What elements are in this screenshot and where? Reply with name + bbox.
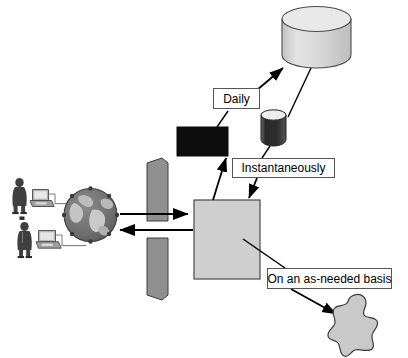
black-rectangle-node	[177, 127, 228, 156]
arrow-server-to-blackbox	[213, 158, 226, 200]
amoeba-blob-node	[328, 294, 378, 356]
line-blackbox-to-daily	[217, 111, 228, 127]
firewall-barrier-bottom	[147, 238, 168, 300]
globe-internet	[62, 186, 119, 243]
user-person-top	[12, 178, 27, 214]
line-warehouse-to-smalldb	[288, 68, 311, 117]
label-daily: Daily	[213, 88, 260, 109]
label-on-an-as-needed-basis: On an as-needed basis	[267, 268, 392, 289]
workstation-bottom	[36, 231, 62, 249]
workstation-top	[30, 190, 55, 207]
arrow-asneeded-to-blob	[291, 289, 336, 314]
server-square	[194, 200, 260, 279]
data-warehouse-cylinder	[282, 7, 351, 69]
line-smalldb-to-instantaneously	[262, 146, 270, 158]
arrow-daily-to-warehouse	[257, 68, 283, 90]
arrow-instantaneously-to-server	[249, 178, 257, 198]
firewall-barrier-top	[147, 158, 168, 221]
small-database-cylinder	[261, 110, 286, 146]
label-instantaneously: Instantaneously	[232, 158, 335, 178]
diagram-canvas: Daily Instantaneously On an as-needed ba…	[0, 0, 408, 358]
user-person-bottom	[17, 217, 32, 259]
diagram-svg	[0, 0, 408, 358]
